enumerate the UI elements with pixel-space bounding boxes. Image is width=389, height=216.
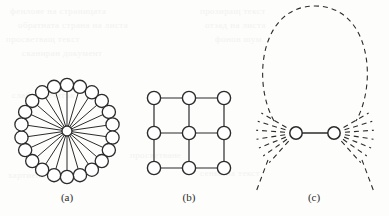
panel-label-a: (a) <box>61 191 74 204</box>
star-outer-node-6[interactable] <box>106 131 119 144</box>
grid-node-2-1[interactable] <box>182 161 195 174</box>
grid-node-0-1[interactable] <box>182 91 195 104</box>
star-outer-node-0[interactable] <box>60 78 73 91</box>
left-fan-ray-3 <box>256 135 285 140</box>
star-hub-node[interactable] <box>62 126 72 136</box>
grid-node-2-0[interactable] <box>147 161 160 174</box>
grid-node-2-2[interactable] <box>217 161 230 174</box>
star-outer-node-1[interactable] <box>73 80 86 93</box>
left-fan-ray-1 <box>258 121 286 129</box>
right-fan-ray-2 <box>345 130 374 132</box>
star-outer-node-17[interactable] <box>15 118 28 131</box>
grid-node-1-2[interactable] <box>217 126 230 139</box>
star-outer-node-21[interactable] <box>47 80 60 93</box>
star-outer-node-15[interactable] <box>19 144 32 157</box>
panel-label-b: (b) <box>183 191 196 204</box>
left-node[interactable] <box>290 127 302 139</box>
panel-c-two-node-fan-graph <box>256 6 374 192</box>
left-fan-ray-2 <box>256 130 285 132</box>
star-outer-node-5[interactable] <box>106 118 119 131</box>
dashed-loop-arc <box>263 6 368 121</box>
star-outer-node-12[interactable] <box>47 169 60 182</box>
right-fan-ray-3 <box>345 135 374 140</box>
star-outer-node-16[interactable] <box>15 131 28 144</box>
grid-node-0-2[interactable] <box>217 91 230 104</box>
right-node[interactable] <box>328 127 340 139</box>
star-outer-node-4[interactable] <box>102 105 115 118</box>
long-dashed-tail-1 <box>362 160 374 192</box>
panel-a-star-graph <box>15 78 119 183</box>
grid-node-1-0[interactable] <box>147 126 160 139</box>
star-outer-node-20[interactable] <box>36 86 49 99</box>
graph-diagram-figure: (a)(b)(c) <box>0 0 389 216</box>
star-outer-node-11[interactable] <box>60 170 73 183</box>
grid-node-1-1[interactable] <box>182 126 195 139</box>
grid-node-0-0[interactable] <box>147 91 160 104</box>
right-fan-ray-1 <box>345 121 373 129</box>
panel-b-grid-graph <box>147 91 230 174</box>
star-outer-node-10[interactable] <box>73 169 86 182</box>
panel-label-c: (c) <box>308 191 321 204</box>
panel-label-group: (a)(b)(c) <box>61 191 321 204</box>
long-dashed-tail-0 <box>256 160 268 192</box>
star-outer-node-9[interactable] <box>85 163 98 176</box>
